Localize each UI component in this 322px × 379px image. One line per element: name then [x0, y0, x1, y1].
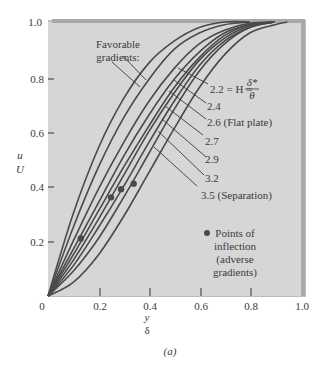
h-label-2.9: 2.9	[205, 153, 219, 165]
x-tick-0: 0	[39, 300, 45, 312]
x-tick-0.8: 0.8	[244, 300, 258, 312]
x-tick-0.2: 0.2	[93, 300, 107, 312]
y-tick-0.4: 0.4	[30, 181, 44, 193]
inflection-label-2: inflection	[214, 240, 257, 252]
velocity-profile-chart: 1.0 0.8 0.6 0.4 0.2 0 0.2 0.4 0.6 0.8 1.…	[0, 0, 322, 379]
inflection-point	[108, 194, 114, 200]
inflection-point	[130, 180, 136, 186]
favorable-label-2: gradients:	[96, 51, 139, 63]
inflection-point	[78, 235, 84, 241]
favorable-label: Favorable	[96, 38, 140, 50]
y-axis-label-U: U	[16, 163, 25, 175]
h-label-2.7: 2.7	[205, 135, 219, 147]
inflection-point	[118, 186, 124, 192]
legend-dot-icon	[204, 230, 210, 236]
h-label-3.5: 3.5 (Separation)	[201, 189, 272, 202]
h-fraction-denominator: θ	[249, 89, 255, 101]
inflection-label-4: gradients)	[213, 266, 257, 279]
x-axis-label-y: y	[144, 311, 150, 323]
y-tick-1.0: 1.0	[28, 16, 42, 28]
x-tick-0.6: 0.6	[194, 300, 208, 312]
inflection-label-3: (adverse	[216, 253, 253, 266]
plot-right-band	[301, 19, 305, 296]
figure-caption: (a)	[164, 345, 177, 358]
x-tick-1.0: 1.0	[295, 300, 309, 312]
h-label-2.6: 2.6 (Flat plate)	[207, 116, 272, 129]
inflection-label-1: Points of	[215, 227, 255, 239]
x-axis-label-delta: δ	[144, 324, 149, 336]
h-label-2.4: 2.4	[207, 100, 221, 112]
y-tick-0.6: 0.6	[30, 127, 44, 139]
h-label-3.2: 3.2	[205, 172, 219, 184]
y-tick-0.8: 0.8	[30, 73, 44, 85]
h-fraction-numerator: δ*	[247, 76, 258, 88]
y-axis-label-u: u	[17, 149, 23, 161]
y-tick-0.2: 0.2	[30, 236, 44, 248]
